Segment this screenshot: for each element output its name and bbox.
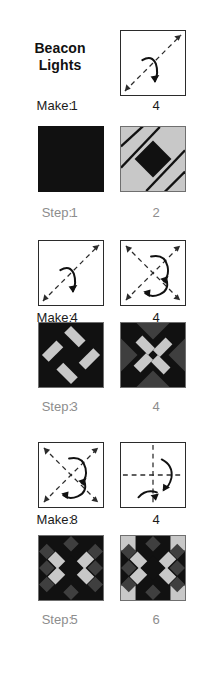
fold-cross-straight-icon <box>121 443 185 507</box>
caption-make-1: Make: 1 4 <box>0 98 203 116</box>
quilt-block <box>38 535 104 601</box>
diagram-square <box>38 240 104 306</box>
quilt-block-with-corners-icon <box>121 536 185 600</box>
black-block-gray-diamond-ring-icon <box>39 323 103 387</box>
diagram-square <box>120 442 186 508</box>
caption-count-left: 5 <box>62 612 86 627</box>
page-title-line-2: Lights <box>14 57 106 74</box>
caption-count-right: 4 <box>144 399 168 414</box>
caption-count-right: 4 <box>144 98 168 113</box>
diagram-fold-diagonal-single <box>38 240 104 306</box>
caption-count-left: 3 <box>62 399 86 414</box>
diagram-fold-cross-straight <box>120 442 186 508</box>
page-title-line-1: Beacon <box>14 40 106 57</box>
diagram-square <box>120 240 186 306</box>
quilt-block <box>38 126 104 192</box>
block-black-gray-diamonds-dark-triangles <box>120 322 186 388</box>
block-quilt-no-corners <box>38 535 104 601</box>
fold-double-diagonal-icon <box>121 241 185 305</box>
caption-count-right: 2 <box>144 205 168 220</box>
diagram-fold-diagonal-single <box>120 30 186 96</box>
caption-make-3: Make: 8 4 <box>0 512 203 530</box>
quilt-block-no-corners-icon <box>39 536 103 600</box>
block-solid-black-square <box>38 126 104 192</box>
quilt-block <box>38 322 104 388</box>
solid-black-square-icon <box>39 127 103 191</box>
quilt-block <box>120 535 186 601</box>
diagram-fold-double-diagonal <box>38 442 104 508</box>
caption-step-3: Step: 5 6 <box>0 612 203 630</box>
page-title: Beacon Lights <box>14 40 106 74</box>
gray-square-black-diamond-icon <box>121 127 185 191</box>
quilt-block <box>120 322 186 388</box>
caption-step-1: Step: 1 2 <box>0 205 203 223</box>
diagram-square <box>120 30 186 96</box>
caption-count-left: 8 <box>62 512 86 527</box>
block-gray-square-black-diamond <box>120 126 186 192</box>
caption-count-left: 1 <box>62 98 86 113</box>
fold-double-diagonal-icon <box>39 443 103 507</box>
caption-step-2: Step: 3 4 <box>0 399 203 417</box>
fold-diagonal-single-icon <box>39 241 103 305</box>
block-black-gray-diamond-ring <box>38 322 104 388</box>
block-quilt-with-corners <box>120 535 186 601</box>
fold-diagonal-single-icon <box>121 31 185 95</box>
diagram-square <box>38 442 104 508</box>
quilt-block <box>120 126 186 192</box>
black-block-gray-diamonds-dark-triangles-icon <box>121 323 185 387</box>
caption-count-right: 4 <box>144 512 168 527</box>
diagram-fold-double-diagonal <box>120 240 186 306</box>
caption-count-right: 6 <box>144 612 168 627</box>
caption-count-left: 1 <box>62 205 86 220</box>
